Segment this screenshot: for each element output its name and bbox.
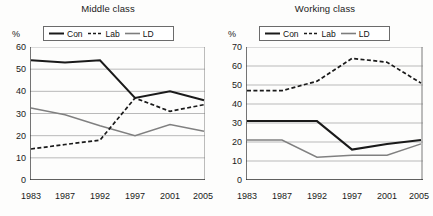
legend: Con Lab LD — [259, 26, 390, 41]
chart-panel-middle-class: Middle class % Con Lab LD 60 50 40 30 20… — [0, 0, 216, 216]
y-axis-unit-label: % — [228, 29, 236, 39]
y-tick-label: 40 — [222, 99, 242, 109]
y-tick-label: 20 — [6, 131, 26, 141]
y-tick-label: 30 — [6, 109, 26, 119]
y-tick-label: 60 — [6, 42, 26, 52]
x-tick-label: 1992 — [307, 191, 327, 201]
chart-sheet: Middle class % Con Lab LD 60 50 40 30 20… — [0, 0, 433, 216]
x-tick-label: 1983 — [21, 191, 41, 201]
legend-item-con: Con — [265, 29, 299, 39]
x-tick-label: 2005 — [193, 191, 213, 201]
legend-line-dashed-icon — [88, 31, 103, 36]
legend-line-gray-icon — [341, 31, 356, 36]
x-tick-label: 2005 — [409, 191, 429, 201]
y-tick-label: 30 — [222, 118, 242, 128]
legend-item-con: Con — [49, 29, 83, 39]
series-line-con — [31, 60, 204, 100]
legend-item-ld: LD — [125, 29, 154, 39]
legend-line-solid-icon — [49, 31, 64, 36]
x-tick-label: 2001 — [160, 191, 180, 201]
legend-label: LD — [359, 29, 370, 39]
series-line-con — [247, 121, 421, 150]
legend-label: Con — [67, 29, 83, 39]
legend-item-lab: Lab — [304, 29, 336, 39]
legend-label: Con — [283, 29, 299, 39]
chart-title: Working class — [217, 3, 433, 14]
x-tick-label: 2001 — [377, 191, 397, 201]
legend-label: LD — [143, 29, 154, 39]
plot-area — [246, 47, 423, 180]
legend-item-lab: Lab — [88, 29, 120, 39]
y-tick-label: 40 — [6, 86, 26, 96]
y-tick-label: 70 — [222, 42, 242, 52]
series-line-lab — [247, 58, 421, 90]
legend-line-gray-icon — [125, 31, 140, 36]
legend: Con Lab LD — [43, 26, 174, 41]
y-tick-label: 50 — [222, 80, 242, 90]
x-tick-label: 1987 — [55, 191, 75, 201]
legend-line-dashed-icon — [304, 31, 319, 36]
gridlines — [30, 47, 205, 158]
y-tick-label: 50 — [6, 64, 26, 74]
x-tick-label: 1992 — [90, 191, 110, 201]
x-tick-label: 1997 — [125, 191, 145, 201]
x-tick-label: 1987 — [272, 191, 292, 201]
y-tick-label: 0 — [222, 175, 242, 185]
y-tick-label: 10 — [222, 156, 242, 166]
gridlines — [246, 47, 423, 161]
plot-svg — [246, 47, 423, 180]
y-tick-label: 60 — [222, 61, 242, 71]
plot-area — [30, 47, 205, 180]
y-tick-label: 0 — [6, 175, 26, 185]
legend-label: Lab — [322, 29, 336, 39]
legend-label: Lab — [106, 29, 120, 39]
y-tick-label: 20 — [222, 137, 242, 147]
series-line-ld — [31, 108, 204, 136]
legend-line-solid-icon — [265, 31, 280, 36]
chart-title: Middle class — [0, 3, 216, 14]
series-line-lab — [31, 98, 204, 149]
plot-svg — [30, 47, 205, 180]
x-tick-label: 1997 — [342, 191, 362, 201]
x-tick-label: 1983 — [237, 191, 257, 201]
axis-frame — [246, 47, 423, 180]
y-tick-label: 10 — [6, 153, 26, 163]
chart-panel-working-class: Working class % Con Lab LD 70 60 50 40 3… — [217, 0, 433, 216]
y-axis-unit-label: % — [12, 29, 20, 39]
legend-item-ld: LD — [341, 29, 370, 39]
